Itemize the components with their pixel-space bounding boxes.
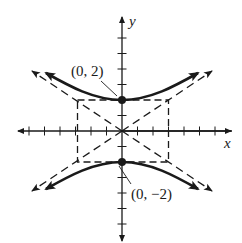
hyperbola-graph: (0, 2) (0, −2) x y [0, 0, 242, 243]
x-axis [18, 127, 232, 136]
lower-branch-right [122, 162, 198, 189]
vertex-top-leader [101, 81, 117, 96]
vertex-bottom-leader [119, 166, 131, 184]
asymptote-positive-slope [122, 71, 212, 131]
vertex-bottom-point [118, 158, 126, 166]
y-axis-label: y [127, 13, 136, 29]
asymptote-negative-slope [32, 71, 122, 131]
x-axis-label: x [223, 135, 231, 151]
vertex-top-point [118, 96, 126, 104]
lower-branch-left [46, 162, 122, 189]
upper-branch-right [122, 73, 198, 100]
vertex-bottom-label: (0, −2) [131, 186, 172, 203]
vertex-top-label: (0, 2) [71, 63, 104, 80]
